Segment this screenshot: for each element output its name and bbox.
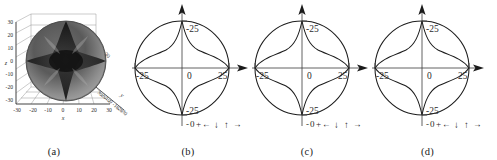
x-tick-label: 0 [62, 107, 65, 113]
annot-plus: + [316, 119, 321, 129]
left-tick-label: -25 [376, 71, 389, 81]
annot-minus: - [306, 119, 309, 129]
x-axis-label: x [61, 115, 65, 121]
annot-arrow-right-icon: → [233, 119, 242, 129]
center-label: 0 [427, 71, 432, 81]
z-tick-label: -30 [6, 97, 14, 103]
z-tick-label: -20 [6, 84, 14, 90]
annot-plus: + [196, 119, 201, 129]
x-tick-label: -30 [13, 107, 21, 113]
annot-arrow-left-icon: ← [442, 119, 451, 129]
annot-arrow-up-icon: ↑ [224, 120, 229, 130]
direction-annotation: - 0 + ← ↓ ↑ → [426, 119, 482, 130]
panel-a: 30 20 10 0 -10 -20 -30 z -30 -20 -10 0 1… [0, 0, 130, 160]
z-axis-label: z [4, 60, 8, 66]
panel-d-caption: (d) [364, 146, 491, 157]
direction-annotation: - 0 + ← ↓ ↑ → [186, 119, 242, 130]
panel-b-plot: -25 -25 -25 25 0 - 0 + ← ↓ ↑ → [130, 0, 250, 140]
annot-arrow-up-icon: ↑ [344, 120, 349, 130]
panel-d: -25 -25 -25 25 0 - 0 + ← ↓ ↑ → (d) [370, 0, 497, 160]
y-tick-label: -30 [119, 107, 129, 116]
annot-zero: 0 [310, 119, 315, 129]
annot-arrow-right-icon: → [353, 119, 362, 129]
left-tick-label: -25 [136, 71, 149, 81]
x-tick-label: 20 [91, 107, 97, 113]
annot-arrow-down-icon: ↓ [334, 120, 339, 130]
z-tick-label: 0 [10, 58, 13, 64]
right-tick-label: 25 [458, 71, 468, 81]
panel-b: -25 -25 -25 25 0 - 0 + ← ↓ ↑ → (b) [130, 0, 250, 160]
panel-a-caption: (a) [0, 146, 119, 157]
annot-arrow-up-icon: ↑ [464, 120, 469, 130]
annot-plus: + [436, 119, 441, 129]
z-tick-label: 10 [7, 45, 13, 51]
panel-c-plot: -25 -25 -25 25 0 - 0 + ← ↓ ↑ → [250, 0, 370, 140]
annot-arrow-down-icon: ↓ [214, 120, 219, 130]
y-axis-label: y [119, 92, 126, 99]
z-tick-label: 30 [7, 19, 13, 25]
direction-annotation: - 0 + ← ↓ ↑ → [306, 119, 362, 130]
x-tick-label: 30 [106, 107, 112, 113]
figure-container: 30 20 10 0 -10 -20 -30 z -30 -20 -10 0 1… [0, 0, 497, 160]
sphere-surface [26, 21, 106, 101]
panel-b-caption: (b) [128, 146, 248, 157]
left-tick-label: -25 [256, 71, 269, 81]
bottom-tick-label: -25 [186, 106, 199, 116]
annot-arrow-left-icon: ← [322, 119, 331, 129]
top-tick-label: -25 [426, 24, 439, 34]
annot-zero: 0 [430, 119, 435, 129]
bottom-tick-label: -25 [306, 106, 319, 116]
annot-zero: 0 [190, 119, 195, 129]
z-tick-label: 20 [7, 32, 13, 38]
annot-minus: - [186, 119, 189, 129]
panel-d-plot: -25 -25 -25 25 0 - 0 + ← ↓ ↑ → [370, 0, 497, 140]
bottom-tick-label: -25 [426, 106, 439, 116]
x-tick-label: -20 [29, 107, 37, 113]
panel-a-z-axis: 30 20 10 0 -10 -20 -30 z [4, 19, 16, 104]
annot-arrow-right-icon: → [473, 119, 482, 129]
right-tick-label: 25 [218, 71, 228, 81]
z-tick-label: -10 [6, 71, 14, 77]
panel-a-plot: 30 20 10 0 -10 -20 -30 z -30 -20 -10 0 1… [0, 0, 130, 135]
x-tick-label: -10 [44, 107, 52, 113]
panel-c-caption: (c) [247, 146, 367, 157]
annot-minus: - [426, 119, 429, 129]
right-tick-label: 25 [338, 71, 348, 81]
panel-c: -25 -25 -25 25 0 - 0 + ← ↓ ↑ → (c) [250, 0, 370, 160]
panel-a-x-axis: -30 -20 -10 0 10 20 30 x [13, 104, 112, 121]
top-tick-label: -25 [186, 24, 199, 34]
annot-arrow-down-icon: ↓ [454, 120, 459, 130]
center-label: 0 [187, 71, 192, 81]
annot-arrow-left-icon: ← [202, 119, 211, 129]
center-label: 0 [307, 71, 312, 81]
x-tick-label: 10 [76, 107, 82, 113]
top-tick-label: -25 [306, 24, 319, 34]
